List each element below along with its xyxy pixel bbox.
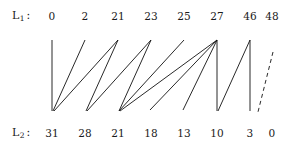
- bottom-node-value-2: 21: [111, 127, 125, 139]
- top-node-value-6: 46: [243, 10, 257, 22]
- bottom-node-value-3: 18: [144, 127, 158, 139]
- edge-6-to-4: [150, 40, 217, 110]
- bottom-row-label-colon: :: [25, 126, 30, 139]
- top-node-value-2: 21: [111, 10, 125, 22]
- bottom-node-value-0: 31: [45, 127, 59, 139]
- top-row-label-letter: L: [12, 9, 20, 22]
- top-node-value-0: 0: [49, 10, 56, 22]
- bipartite-correspondence-diagram: L1: 02212325274648 L2: 31282118131030: [0, 0, 288, 152]
- top-node-value-7: 48: [265, 10, 279, 22]
- edge-8-to-7: [258, 52, 273, 112]
- bottom-row-label: L2:: [12, 126, 31, 140]
- edge-6-to-5: [183, 40, 217, 110]
- bottom-node-value-4: 13: [177, 127, 191, 139]
- top-node-value-4: 25: [177, 10, 191, 22]
- edge-3-to-2: [86, 40, 118, 111]
- edge-7-to-6: [218, 40, 250, 111]
- bottom-node-value-7: 0: [269, 127, 276, 139]
- bottom-node-value-6: 3: [247, 127, 254, 139]
- edge-4-to-2: [87, 40, 151, 111]
- edge-3-to-1: [54, 40, 118, 111]
- bottom-row: L2: 31282118131030: [0, 125, 288, 143]
- top-node-value-1: 2: [82, 10, 89, 22]
- edge-5-to-3: [119, 40, 184, 111]
- top-row-label: L1:: [12, 9, 31, 23]
- top-row-label-colon: :: [25, 9, 30, 22]
- bottom-row-label-letter: L: [12, 126, 20, 139]
- top-node-value-5: 27: [210, 10, 224, 22]
- bottom-node-value-5: 10: [210, 127, 224, 139]
- edge-2-to-1: [53, 40, 85, 111]
- bottom-node-value-1: 28: [78, 127, 92, 139]
- top-node-value-3: 23: [144, 10, 158, 22]
- top-row: L1: 02212325274648: [0, 8, 288, 26]
